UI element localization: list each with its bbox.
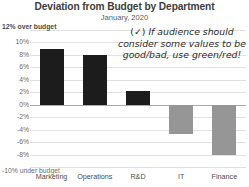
bar-finance — [212, 105, 236, 155]
x-axis-tick-label: R&D — [116, 172, 159, 182]
y-axis-tick-label: -6% — [1, 138, 29, 146]
x-axis-tick-label: Finance — [203, 172, 246, 182]
axis-caption-bottom-value: -10% — [2, 167, 18, 174]
x-axis-tick-label: IT — [160, 172, 203, 182]
annotation-note: (✓) If audience should consider some val… — [118, 26, 246, 61]
gridline — [30, 155, 246, 156]
axis-caption-top-text: over budget — [18, 23, 57, 30]
y-axis-labels: 10%8%6%4%2%0%-2%-4%-6%-8% — [0, 30, 29, 167]
x-axis-labels: MarketingOperationsR&DITFinance — [30, 172, 246, 185]
y-axis-tick-label: 0% — [1, 101, 29, 109]
y-axis-tick-label: 6% — [1, 63, 29, 71]
bar-it — [169, 105, 193, 134]
checkmark-icon: (✓) — [130, 26, 145, 37]
y-axis-tick-label: -2% — [1, 113, 29, 121]
annotation-line-1: If audience should — [148, 26, 233, 37]
axis-caption-bottom-text: under budget — [20, 167, 60, 174]
axis-caption-top: 12% over budget — [2, 23, 56, 31]
bar-marketing — [40, 49, 64, 105]
y-axis-tick-label: -4% — [1, 126, 29, 134]
chart-title: Deviation from Budget by Department — [0, 1, 249, 12]
axis-caption-bottom: -10% under budget — [2, 167, 60, 175]
chart-subtitle: January, 2020 — [0, 13, 249, 22]
bar-r-d — [126, 91, 150, 105]
y-axis-tick-label: 10% — [1, 38, 29, 46]
chart-container: Deviation from Budget by Department Janu… — [0, 0, 249, 187]
gridline — [30, 167, 246, 168]
y-axis-tick-label: 4% — [1, 76, 29, 84]
y-axis-tick-label: -8% — [1, 151, 29, 159]
bar-operations — [83, 55, 107, 105]
annotation-line-2: consider some values to be — [118, 38, 246, 49]
x-axis-tick-label: Operations — [73, 172, 116, 182]
y-axis-tick-label: 8% — [1, 51, 29, 59]
y-axis-tick-label: 2% — [1, 88, 29, 96]
axis-caption-top-value: 12% — [2, 23, 16, 30]
annotation-line-3: good/bad, use green/red! — [123, 49, 242, 60]
